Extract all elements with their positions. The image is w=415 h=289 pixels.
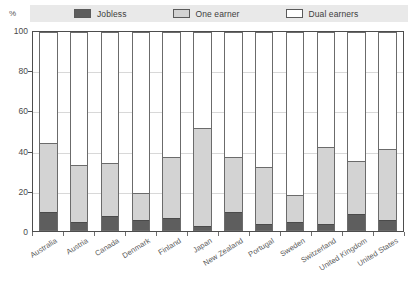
- x-tick-label: Canada: [93, 236, 121, 258]
- bar-slot: [249, 32, 280, 231]
- legend-dual-earners: Dual earners: [286, 9, 359, 19]
- x-tickmark: [373, 232, 374, 236]
- x-tickmark: [280, 232, 281, 236]
- x-tickmark: [342, 232, 343, 236]
- bar-segment-jobless: [163, 218, 179, 230]
- bar-segment-jobless: [348, 214, 364, 230]
- stacked-bar: [286, 32, 304, 231]
- bar-segment-one-earner: [194, 128, 210, 230]
- x-tickmark: [311, 232, 312, 236]
- bar-segment-jobless: [256, 224, 272, 230]
- x-tickmark: [32, 232, 33, 236]
- chart-figure: % JoblessOne earnerDual earners 02040608…: [0, 0, 415, 289]
- stacked-bar: [162, 32, 180, 231]
- bar-segment-jobless: [102, 216, 118, 230]
- y-axis: 020406080100: [0, 31, 28, 232]
- x-tickmark: [187, 232, 188, 236]
- y-tick-label-60: 60: [19, 107, 28, 116]
- x-tick-label: Austria: [64, 236, 89, 256]
- bar-segment-jobless: [318, 224, 334, 230]
- bar-slot: [372, 32, 403, 231]
- stacked-bar: [347, 32, 365, 231]
- stacked-bar: [317, 32, 335, 231]
- stacked-bar: [255, 32, 273, 231]
- x-tickmark: [249, 232, 250, 236]
- legend-jobless: Jobless: [74, 9, 127, 19]
- bar-slot: [341, 32, 372, 231]
- bar-segment-jobless: [225, 212, 241, 230]
- bar-group: [33, 32, 403, 231]
- bar-segment-jobless: [379, 220, 395, 230]
- bar-segment-jobless: [40, 212, 56, 230]
- y-tickmark-20: [28, 192, 32, 193]
- stacked-bar: [378, 32, 396, 231]
- y-tickmark-40: [28, 152, 32, 153]
- y-axis-unit-label: %: [9, 9, 16, 18]
- stacked-bar: [224, 32, 242, 231]
- x-tick-label: Australia: [28, 236, 58, 260]
- x-tickmark: [63, 232, 64, 236]
- bar-slot: [64, 32, 95, 231]
- x-tick-label: Finland: [156, 236, 182, 257]
- bar-slot: [33, 32, 64, 231]
- y-tick-label-100: 100: [14, 27, 28, 36]
- bar-slot: [95, 32, 126, 231]
- stacked-bar: [193, 32, 211, 231]
- legend-jobless-swatch: [74, 9, 91, 18]
- legend-one-earner: One earner: [173, 9, 240, 19]
- y-tick-label-0: 0: [23, 228, 28, 237]
- y-tick-label-80: 80: [19, 67, 28, 76]
- x-tick-label: Denmark: [120, 236, 151, 260]
- bar-segment-one-earner: [318, 147, 334, 230]
- legend-dual-earners-swatch: [286, 9, 303, 18]
- bar-slot: [187, 32, 218, 231]
- y-tickmark-60: [28, 111, 32, 112]
- legend-dual-earners-label: Dual earners: [309, 9, 359, 19]
- stacked-bar: [132, 32, 150, 231]
- x-tickmark: [94, 232, 95, 236]
- x-tick-label: Japan: [191, 236, 214, 255]
- bar-segment-one-earner: [256, 167, 272, 230]
- y-tick-label-40: 40: [19, 147, 28, 156]
- stacked-bar: [39, 32, 57, 231]
- bar-segment-one-earner: [379, 149, 395, 230]
- stacked-bar: [101, 32, 119, 231]
- bar-segment-jobless: [194, 226, 210, 230]
- legend-one-earner-label: One earner: [196, 9, 240, 19]
- stacked-bar: [70, 32, 88, 231]
- legend-one-earner-swatch: [173, 9, 190, 18]
- y-tick-label-20: 20: [19, 188, 28, 197]
- x-tickmark: [156, 232, 157, 236]
- bar-slot: [156, 32, 187, 231]
- bar-segment-jobless: [133, 220, 149, 230]
- bar-slot: [280, 32, 311, 231]
- bar-slot: [218, 32, 249, 231]
- x-tickmark: [218, 232, 219, 236]
- x-axis-labels: AustraliaAustriaCanadaDenmarkFinlandJapa…: [32, 232, 404, 289]
- legend-jobless-label: Jobless: [97, 9, 127, 19]
- bar-slot: [310, 32, 341, 231]
- bar-segment-jobless: [287, 222, 303, 230]
- chart-legend: JoblessOne earnerDual earners: [30, 5, 408, 22]
- x-tickmark: [404, 232, 405, 236]
- x-tickmark: [125, 232, 126, 236]
- bar-slot: [125, 32, 156, 231]
- x-tick-label: Portugal: [246, 236, 275, 259]
- bar-segment-one-earner: [71, 165, 87, 230]
- bar-segment-jobless: [71, 222, 87, 230]
- y-tickmark-80: [28, 71, 32, 72]
- plot-area: [32, 31, 404, 232]
